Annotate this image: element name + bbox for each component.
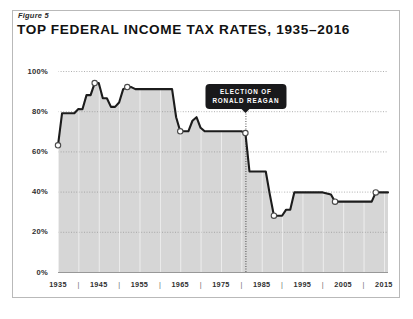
x-axis-minor-tick: | — [159, 280, 161, 289]
x-axis-minor-tick: | — [322, 280, 324, 289]
annotation-line-1: ELECTION OF — [212, 87, 279, 96]
x-axis-tick-label: 2005 — [334, 280, 352, 289]
x-axis-tick-label: 1995 — [294, 280, 312, 289]
y-axis-tick-label: 0% — [14, 268, 48, 277]
x-axis-tick-label: 1955 — [131, 280, 149, 289]
x-axis-tick-label: 1985 — [253, 280, 271, 289]
x-axis-minor-tick: | — [240, 280, 242, 289]
y-axis-tick-label: 80% — [14, 107, 48, 116]
y-axis-tick-label: 100% — [14, 67, 48, 76]
x-axis-minor-tick: | — [77, 280, 79, 289]
y-axis-tick-label: 60% — [14, 147, 48, 156]
x-axis-minor-tick: | — [281, 280, 283, 289]
x-axis-minor-tick: | — [118, 280, 120, 289]
annotation-line-2: RONALD REAGAN — [212, 96, 279, 105]
reagan-election-annotation: ELECTION OF RONALD REAGAN — [205, 84, 286, 109]
x-axis-tick-label: 1945 — [90, 280, 108, 289]
x-axis-minor-tick: | — [363, 280, 365, 289]
x-axis-tick-label: 1935 — [49, 280, 67, 289]
x-axis-tick-label: 1965 — [171, 280, 189, 289]
tax-rate-line-chart — [0, 0, 413, 319]
x-axis-minor-tick: | — [200, 280, 202, 289]
y-axis-tick-label: 20% — [14, 227, 48, 236]
y-axis-tick-label: 40% — [14, 187, 48, 196]
x-axis-tick-label: 2015 — [375, 280, 393, 289]
chart-plot-area: 0%20%40%60%80%100% 193519451955196519751… — [0, 0, 413, 319]
x-axis-tick-label: 1975 — [212, 280, 230, 289]
